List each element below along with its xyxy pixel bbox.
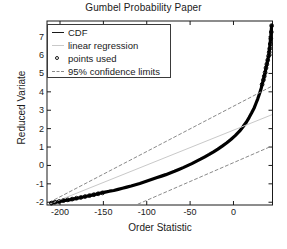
y-tick-label: 1 [28,142,44,152]
x-tick-label: 0 [231,207,236,217]
y-tick-label: 3 [28,105,44,115]
y-tick-label: 6 [28,50,44,60]
y-tick-label: -1 [28,179,44,189]
legend-solid-line-icon [51,26,68,39]
legend-label: 95% confidence limits [68,65,160,78]
legend-label: CDF [68,26,88,39]
x-tick-label: -150 [94,207,112,217]
y-tick-label: 0 [28,160,44,170]
series-95-confidence-lower [138,146,272,204]
chart-figure: Gumbel Probability Paper -200-150-100-50… [0,0,287,249]
legend-label: points used [68,52,117,65]
y-tick-label: -2 [28,197,44,207]
legend-label: linear regression [68,39,138,52]
x-axis-label: Order Statistic [47,222,273,233]
y-tick-label: 4 [28,87,44,97]
legend-item-linear-regression: linear regression [48,39,170,52]
legend-dashed-line-icon [51,65,68,78]
legend-item-points-used: points used [48,52,170,65]
x-tick-label: -100 [138,207,156,217]
legend-item-confidence-limits: 95% confidence limits [48,65,170,78]
x-tick-label: -50 [184,207,197,217]
chart-legend: CDF linear regression points used 95% co… [47,24,171,78]
legend-faint-line-icon [51,39,68,52]
x-tick-label: -200 [51,207,69,217]
y-tick-label: 2 [28,124,44,134]
y-tick-label: 5 [28,68,44,78]
series-linear-regression [50,115,272,204]
series-95-confidence-upper [50,86,272,202]
legend-item-cdf: CDF [48,26,170,39]
y-axis-label: Reduced Variate [16,48,27,168]
y-tick-label: 7 [28,32,44,42]
legend-circle-marker-icon [51,52,68,65]
